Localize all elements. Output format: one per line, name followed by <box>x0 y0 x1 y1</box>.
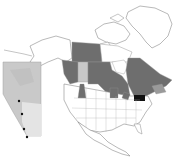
alberta <box>78 62 88 82</box>
arctic-islands <box>95 22 130 44</box>
minnesota <box>110 88 118 98</box>
location-dot <box>26 136 28 138</box>
idaho <box>78 84 86 98</box>
location-dot <box>21 113 23 115</box>
alberta-inset <box>3 62 41 138</box>
nunavut <box>100 44 132 62</box>
north-america-map <box>0 0 177 157</box>
british-columbia <box>62 60 78 84</box>
greenland <box>126 6 172 48</box>
yukon-nwt <box>72 42 104 62</box>
location-dot <box>18 100 20 102</box>
location-dot <box>23 128 25 130</box>
